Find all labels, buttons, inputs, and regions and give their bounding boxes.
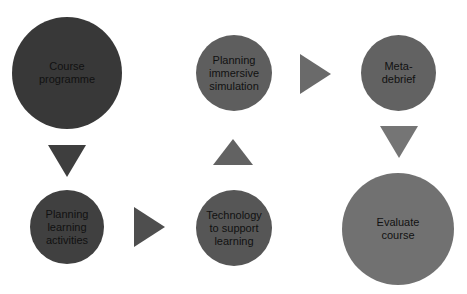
node-label: Technology to support learning <box>206 209 262 248</box>
node-planning-immersive-simulation: Planning immersive simulation <box>196 35 272 111</box>
arrow-up-icon <box>213 139 253 165</box>
node-course-programme: Course programme <box>12 17 122 129</box>
arrow-down-icon <box>380 126 418 158</box>
node-evaluate-course: Evaluate course <box>342 173 454 285</box>
node-label: Course programme <box>39 60 95 86</box>
node-label: Evaluate course <box>377 216 420 242</box>
node-meta-debrief: Meta- debrief <box>361 35 436 111</box>
node-label: Meta- debrief <box>382 60 416 86</box>
arrow-right-icon <box>300 54 331 94</box>
node-label: Planning learning activities <box>46 208 89 247</box>
node-label: Planning immersive simulation <box>209 54 259 93</box>
node-technology-to-support-learning: Technology to support learning <box>196 190 272 266</box>
arrow-down-icon <box>48 145 86 177</box>
node-planning-learning-activities: Planning learning activities <box>30 190 104 264</box>
arrow-right-icon <box>134 207 165 247</box>
